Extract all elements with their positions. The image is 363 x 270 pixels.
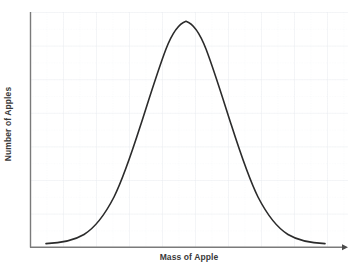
x-axis-label-text: Mass of Apple bbox=[160, 252, 219, 262]
chart-figure: Number of Apples Mass of Apple bbox=[0, 0, 363, 270]
grid-major bbox=[30, 12, 348, 247]
chart-gridlines bbox=[30, 12, 348, 247]
plot-canvas bbox=[0, 0, 363, 270]
x-axis-label: Mass of Apple bbox=[30, 252, 348, 262]
